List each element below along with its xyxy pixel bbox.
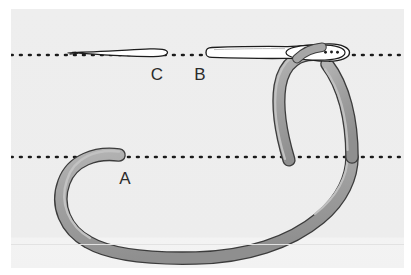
figure-container: C B A xyxy=(0,0,411,275)
label-b: B xyxy=(194,65,205,84)
diagram-svg: C B A xyxy=(0,0,411,275)
label-a: A xyxy=(119,169,131,188)
label-c: C xyxy=(151,65,163,84)
needle-eye-stipple xyxy=(324,51,339,54)
